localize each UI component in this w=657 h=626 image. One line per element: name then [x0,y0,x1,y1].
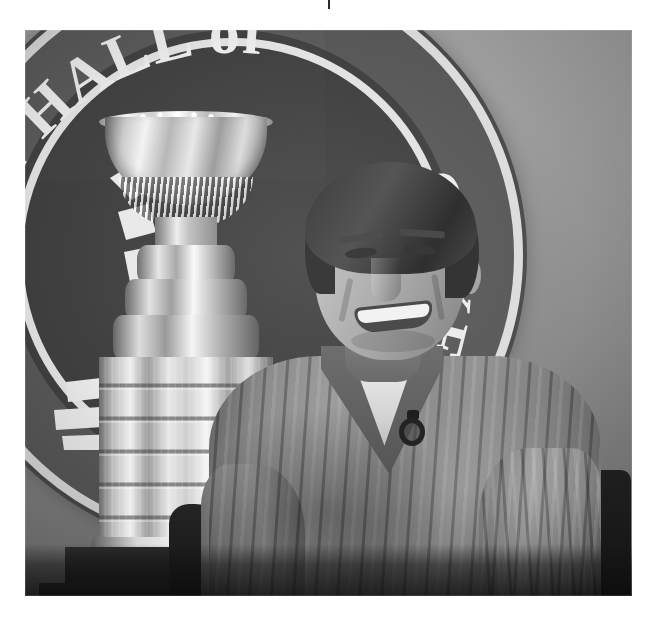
chin-shadow [351,330,435,352]
lapel-microphone-icon [399,418,425,446]
crop-registration-tick [328,0,330,9]
foreground-shadow [25,544,632,596]
photograph: KEY HALL of OCKEY [25,30,632,596]
nose [371,258,401,302]
seated-man [193,148,613,596]
teeth [357,303,430,323]
photo-page: KEY HALL of OCKEY [0,0,657,626]
